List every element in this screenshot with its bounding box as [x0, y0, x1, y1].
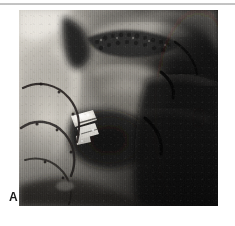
photograph-canvas [19, 10, 218, 206]
surgical-photograph [19, 10, 218, 206]
photo-film-grain [19, 10, 218, 206]
top-horizontal-rule [0, 3, 235, 5]
figure-panel: A [0, 0, 235, 226]
panel-label-a: A [9, 190, 18, 204]
